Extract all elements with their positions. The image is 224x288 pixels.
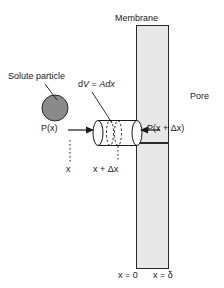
control-volume-label: dV = Adx	[78, 80, 115, 89]
boundary-right-label: x = δ	[153, 271, 173, 280]
control-volume-slab-right-face	[115, 121, 122, 146]
position-x-plus-dx-label: x + Δx	[93, 165, 118, 174]
cylinder-left-cap	[93, 121, 103, 146]
membrane-lower-slab	[137, 144, 169, 269]
control-volume-slab-left-face	[107, 121, 114, 146]
boundary-left-label: x = 0	[118, 271, 138, 280]
solute-particle-label: Solute particle	[8, 72, 65, 81]
control-volume-dx: dx	[105, 79, 115, 89]
diagram-canvas	[0, 0, 224, 288]
membrane-pore-diagram: Membrane Solute particle dV = Adx Pore P…	[0, 0, 224, 288]
cylinder-right-cap	[132, 121, 142, 146]
control-volume-leader-line	[92, 92, 112, 123]
pressure-left-label: P(x)	[41, 124, 58, 133]
position-x-label: x	[66, 165, 71, 174]
solute-particle-circle	[42, 95, 68, 121]
membrane-label: Membrane	[115, 14, 158, 23]
control-volume-equals: =	[89, 79, 99, 89]
pressure-right-label: P(x + Δx)	[147, 124, 184, 133]
pore-label: Pore	[190, 92, 209, 101]
